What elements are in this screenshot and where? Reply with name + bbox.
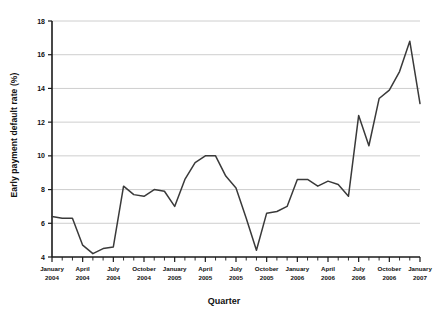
- x-tick-label-month: July: [230, 265, 243, 272]
- x-tick-label-month: July: [352, 265, 365, 272]
- y-tick-label: 16: [37, 51, 45, 58]
- y-tick-label: 10: [37, 152, 45, 159]
- x-tick-label-year: 2006: [382, 274, 396, 281]
- x-axis-title: Quarter: [28, 296, 420, 306]
- x-tick-label-year: 2005: [229, 274, 243, 281]
- x-tick-label-year: 2004: [106, 274, 120, 281]
- x-tick-label-year: 2006: [352, 274, 366, 281]
- x-tick-label-month: January: [408, 265, 432, 272]
- x-tick-label-month: January: [285, 265, 309, 272]
- x-tick-label-month: April: [321, 265, 335, 272]
- x-tick-label-month: July: [107, 265, 120, 272]
- y-tick-label: 12: [37, 119, 45, 126]
- x-tick-label-year: 2004: [76, 274, 90, 281]
- x-tick-label-month: April: [76, 265, 90, 272]
- y-tick-label: 4: [41, 254, 45, 261]
- x-tick-label-year: 2007: [413, 274, 427, 281]
- x-tick-labels-group: January2004April2004July2004October2004J…: [40, 265, 432, 281]
- x-tick-label-month: January: [163, 265, 187, 272]
- x-tick-label-year: 2004: [137, 274, 151, 281]
- y-ticks-group: 4681012141618: [37, 18, 52, 261]
- data-series-line: [52, 41, 420, 253]
- y-tick-label: 14: [37, 85, 45, 92]
- x-tick-label-year: 2005: [168, 274, 182, 281]
- y-tick-label: 8: [41, 186, 45, 193]
- y-tick-label: 18: [37, 18, 45, 25]
- x-tick-label-year: 2006: [290, 274, 304, 281]
- x-tick-label-month: October: [255, 265, 279, 272]
- chart-container: Early payment default rate (%) 468101214…: [0, 0, 435, 323]
- x-tick-label-month: April: [198, 265, 212, 272]
- x-tick-label-year: 2004: [45, 274, 59, 281]
- x-tick-label-month: October: [132, 265, 156, 272]
- line-chart-plot: 4681012141618 January2004April2004July20…: [0, 0, 435, 323]
- x-tick-label-year: 2005: [198, 274, 212, 281]
- gridlines-group: [52, 21, 420, 223]
- x-tick-label-year: 2006: [321, 274, 335, 281]
- x-tick-label-year: 2005: [260, 274, 274, 281]
- x-tick-label-month: January: [40, 265, 64, 272]
- y-tick-label: 6: [41, 220, 45, 227]
- x-tick-label-month: October: [377, 265, 401, 272]
